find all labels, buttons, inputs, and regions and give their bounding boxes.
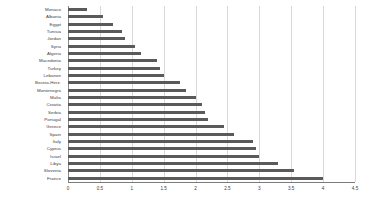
- x-axis-tick-label: 1.5: [160, 186, 166, 191]
- x-axis-line: [68, 182, 355, 183]
- gridline-4.5: [355, 6, 356, 182]
- y-axis-label: Croatia: [0, 101, 64, 108]
- bar[interactable]: [68, 15, 103, 18]
- bar-row[interactable]: [68, 109, 355, 116]
- bar[interactable]: [68, 89, 186, 92]
- bar[interactable]: [68, 67, 160, 70]
- bar[interactable]: [68, 111, 205, 114]
- bar-row[interactable]: [68, 175, 355, 182]
- x-axis-tick-label: 3: [258, 186, 261, 191]
- bar[interactable]: [68, 37, 125, 40]
- y-axis-label: Serbia: [0, 109, 64, 116]
- plot-area: [68, 6, 355, 182]
- bar-row[interactable]: [68, 138, 355, 145]
- y-axis-category-labels: MonacoAlbaniaEgyptTunisiaJordanSyriaAlge…: [0, 6, 64, 182]
- x-axis-tick-label: 4.5: [352, 186, 358, 191]
- bar-row[interactable]: [68, 65, 355, 72]
- y-axis-label: Macedonia: [0, 57, 64, 64]
- y-axis-label: Libya: [0, 160, 64, 167]
- bar-row[interactable]: [68, 50, 355, 57]
- y-axis-label: France: [0, 175, 64, 182]
- bar[interactable]: [68, 45, 135, 48]
- y-axis-label: Albania: [0, 13, 64, 20]
- bar-row[interactable]: [68, 94, 355, 101]
- bar[interactable]: [68, 81, 180, 84]
- bar-row[interactable]: [68, 79, 355, 86]
- bar[interactable]: [68, 52, 141, 55]
- x-axis-tick-label: 2: [194, 186, 197, 191]
- bar-row[interactable]: [68, 87, 355, 94]
- bar[interactable]: [68, 74, 164, 77]
- bar-row[interactable]: [68, 6, 355, 13]
- y-axis-label: Italy: [0, 138, 64, 145]
- bar-row[interactable]: [68, 13, 355, 20]
- x-axis-tick-label: 4: [322, 186, 325, 191]
- bar[interactable]: [68, 118, 208, 121]
- bar[interactable]: [68, 155, 259, 158]
- bar-row[interactable]: [68, 145, 355, 152]
- x-axis-tick-labels: 00.511.522.533.544.5: [68, 184, 355, 200]
- y-axis-label: Egypt: [0, 21, 64, 28]
- bar-rows: [68, 6, 355, 182]
- horizontal-bar-chart: MonacoAlbaniaEgyptTunisiaJordanSyriaAlge…: [0, 0, 380, 206]
- y-axis-label: Lebanon: [0, 72, 64, 79]
- x-axis-tick-label: 3.5: [288, 186, 294, 191]
- y-axis-label: Malta: [0, 94, 64, 101]
- bar[interactable]: [68, 133, 234, 136]
- y-axis-label: Tunisia: [0, 28, 64, 35]
- bar[interactable]: [68, 103, 202, 106]
- bar-row[interactable]: [68, 57, 355, 64]
- bar-row[interactable]: [68, 72, 355, 79]
- y-axis-label: Portugal: [0, 116, 64, 123]
- y-axis-label: Montenegro: [0, 87, 64, 94]
- x-axis-tick-label: 1: [130, 186, 133, 191]
- bar-row[interactable]: [68, 43, 355, 50]
- bar-row[interactable]: [68, 160, 355, 167]
- y-axis-label: Spain: [0, 131, 64, 138]
- bar[interactable]: [68, 162, 278, 165]
- bar[interactable]: [68, 147, 256, 150]
- bar[interactable]: [68, 125, 224, 128]
- bar-row[interactable]: [68, 21, 355, 28]
- bar[interactable]: [68, 140, 253, 143]
- bar[interactable]: [68, 8, 87, 11]
- y-axis-label: Greece: [0, 123, 64, 130]
- bar[interactable]: [68, 96, 196, 99]
- y-axis-label: Algeria: [0, 50, 64, 57]
- bar[interactable]: [68, 30, 122, 33]
- bar-row[interactable]: [68, 153, 355, 160]
- bar[interactable]: [68, 23, 113, 26]
- bar-row[interactable]: [68, 101, 355, 108]
- bar-row[interactable]: [68, 123, 355, 130]
- bar-row[interactable]: [68, 131, 355, 138]
- bar-row[interactable]: [68, 116, 355, 123]
- bar[interactable]: [68, 169, 294, 172]
- y-axis-label: Slovenia: [0, 167, 64, 174]
- x-axis-tick-label: 0.5: [97, 186, 103, 191]
- y-axis-label: Israel: [0, 153, 64, 160]
- x-axis-tick-label: 0: [67, 186, 70, 191]
- bar-row[interactable]: [68, 28, 355, 35]
- y-axis-label: Monaco: [0, 6, 64, 13]
- y-axis-label: Turkey: [0, 65, 64, 72]
- bar[interactable]: [68, 177, 323, 180]
- x-axis-tick-label: 2.5: [224, 186, 230, 191]
- y-axis-label: Bosnia-Herz.: [0, 79, 64, 86]
- y-axis-label: Cyprus: [0, 145, 64, 152]
- bar[interactable]: [68, 59, 157, 62]
- bar-row[interactable]: [68, 35, 355, 42]
- y-axis-label: Jordan: [0, 35, 64, 42]
- y-axis-label: Syria: [0, 43, 64, 50]
- bar-row[interactable]: [68, 167, 355, 174]
